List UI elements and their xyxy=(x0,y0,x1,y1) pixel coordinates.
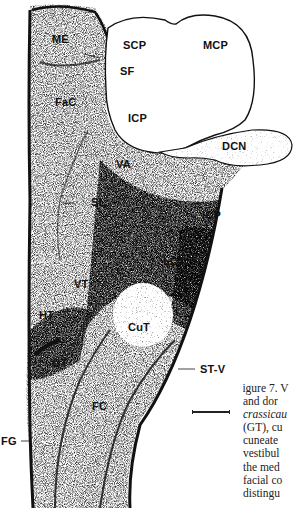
scale-bar xyxy=(192,411,230,413)
label-fac: FaC xyxy=(55,97,76,108)
label-ht: HT xyxy=(39,310,54,321)
label-lct: LCT xyxy=(163,256,185,267)
label-scp: SCP xyxy=(123,40,146,51)
brainstem-figure: ME SCP MCP SF FaC ICP DCN VA SL ICP LCT … xyxy=(0,0,299,508)
label-sl: SL xyxy=(91,197,105,208)
label-vt: VT xyxy=(74,279,88,290)
caption-line: and dor xyxy=(243,395,299,408)
label-gt: GT xyxy=(52,358,68,369)
label-fg: FG xyxy=(1,436,17,447)
label-cut: CuT xyxy=(128,322,150,333)
cut-region xyxy=(113,283,173,347)
label-dcn: DCN xyxy=(222,141,246,152)
label-sf: SF xyxy=(120,66,134,77)
caption-line: the med xyxy=(243,461,299,474)
caption-line: vestibul xyxy=(243,447,299,460)
label-icp-top: ICP xyxy=(128,113,147,124)
fac-region xyxy=(36,73,96,157)
caption-line: (GT), cu xyxy=(243,421,299,434)
caption-line: facial co xyxy=(243,474,299,487)
caption-line: distingu xyxy=(243,487,299,500)
caption-line: Figure 7. V xyxy=(243,382,299,395)
label-st-v: ST-V xyxy=(200,364,225,375)
caption-italic-species: crassicau xyxy=(243,408,287,420)
caption-line: cuneate xyxy=(243,434,299,447)
label-icp-side: ICP xyxy=(202,210,221,221)
lct-region xyxy=(150,214,190,250)
peduncle-outline xyxy=(105,15,254,153)
label-fc: FC xyxy=(92,401,107,412)
label-mcp: MCP xyxy=(203,40,228,51)
label-me: ME xyxy=(52,34,69,45)
figure-caption: Figure 7. V and dor crassicau (GT), cu c… xyxy=(243,382,299,500)
label-va: VA xyxy=(116,159,131,170)
caption-line: crassicau xyxy=(243,408,299,421)
